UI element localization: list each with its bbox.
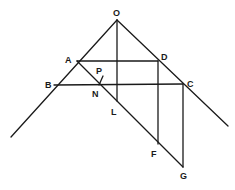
point-label-n: N <box>92 89 99 99</box>
point-label-g: G <box>180 171 187 181</box>
point-label-o: O <box>113 8 120 18</box>
point-label-c: C <box>187 79 194 89</box>
point-label-d: D <box>161 52 168 62</box>
segment-tick-P <box>99 76 103 85</box>
segment-left-arm-OB-extended <box>11 20 117 137</box>
geometry-diagram: OABDCPNLFG <box>0 0 235 190</box>
segment-right-arm-OC-extended <box>117 20 228 126</box>
point-label-f: F <box>151 149 157 159</box>
line-segments <box>11 20 228 167</box>
point-label-b: B <box>45 80 52 90</box>
point-label-a: A <box>65 55 72 65</box>
point-label-p: P <box>96 66 102 76</box>
segment-horizontal-BC <box>54 84 183 85</box>
segment-diagonal-AG <box>77 61 183 167</box>
point-label-l: L <box>111 107 117 117</box>
